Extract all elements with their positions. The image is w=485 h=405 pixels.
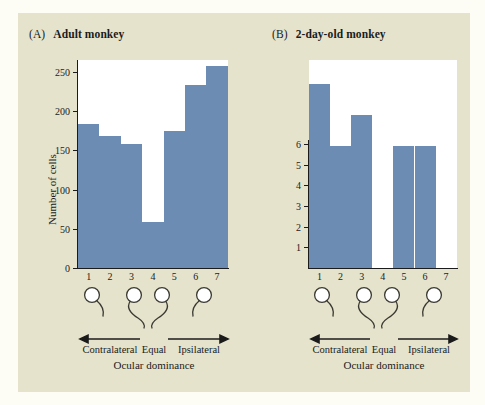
optic-chiasm-icon-left <box>358 302 374 329</box>
panel-b-bars <box>309 60 457 268</box>
optic-chiasm-icon-right <box>152 302 168 329</box>
optic-nerve-icon-left <box>327 301 334 317</box>
bar-b-5 <box>393 146 414 268</box>
arrow-right-head <box>449 335 457 343</box>
panel-b-ytick-mark-1 <box>304 247 308 248</box>
panel-a-ytick-label-200: 200 <box>44 106 70 117</box>
panel-b-axis-caption: Ocular dominance <box>344 359 425 371</box>
panel-b-ytick-mark-2 <box>304 227 308 228</box>
panel-b-ytick-mark-4 <box>304 185 308 186</box>
arrow-left-head <box>311 335 319 343</box>
panel-a-ytick-label-250: 250 <box>44 66 70 77</box>
panel-b-xtick-5: 5 <box>401 271 406 282</box>
bar-a-5 <box>164 131 185 268</box>
bar-a-7 <box>206 66 227 268</box>
panel-b-eye-diagram <box>309 285 459 335</box>
panel-b-yaxis <box>308 140 309 269</box>
panel-a-xtick-7: 7 <box>215 271 220 282</box>
panel-b-tag: (B) <box>272 28 288 40</box>
panel-b-ytick-mark-3 <box>304 206 308 207</box>
optic-chiasm-icon-right <box>382 302 398 329</box>
eye-diagram-svg <box>78 285 230 331</box>
panel-a-xaxis <box>77 268 229 269</box>
eyeball-icon-center-left <box>357 288 372 303</box>
panel-b-ytick-mark-6 <box>304 144 308 145</box>
panel-a-xtick-1: 1 <box>86 271 91 282</box>
bar-b-2 <box>330 146 351 268</box>
panel-b-ytick-label-6: 6 <box>285 139 301 150</box>
panel-a-tag: (A) <box>29 28 45 40</box>
bar-a-4 <box>142 222 163 268</box>
arrow-right-head <box>220 335 228 343</box>
optic-nerve-icon-right <box>193 301 200 317</box>
panel-a-ytick-mark-150 <box>73 150 77 151</box>
panel-a-title: (A) Adult monkey <box>29 28 124 40</box>
eyeball-icon-left <box>85 288 100 303</box>
optic-nerve-icon-right <box>423 301 430 317</box>
bar-a-3 <box>121 144 142 268</box>
panel-b-plot-area <box>309 60 457 268</box>
panel-b-ytick-label-1: 1 <box>285 242 301 253</box>
panel-b-ytick-label-5: 5 <box>285 159 301 170</box>
arrow-left-head <box>80 335 88 343</box>
panel-a-xtick-5: 5 <box>172 271 177 282</box>
bar-b-3 <box>351 115 372 268</box>
eyeball-icon-left <box>315 288 330 303</box>
eyeball-icon-center-right <box>155 288 170 303</box>
panel-a-xtick-3: 3 <box>129 271 134 282</box>
panel-b-xtick-3: 3 <box>359 271 364 282</box>
panel-b-ytick-label-2: 2 <box>285 221 301 232</box>
panel-a-axis-caption: Ocular dominance <box>114 359 195 371</box>
panel-a-yaxis <box>77 60 78 269</box>
optic-nerve-icon-left <box>97 301 104 317</box>
panel-a-ytick-mark-250 <box>73 72 77 73</box>
eyeball-icon-right <box>427 288 442 303</box>
panel-b-xaxis <box>308 268 458 269</box>
panel-b-name: 2-day-old monkey <box>296 28 386 40</box>
panel-b-label-contralateral: Contralateral <box>313 344 368 355</box>
panel-b-xtick-1: 1 <box>317 271 322 282</box>
eyeball-icon-right <box>197 288 212 303</box>
eyeball-icon-center-left <box>127 288 142 303</box>
panel-a-ytick-label-150: 150 <box>44 145 70 156</box>
panel-b-xtick-2: 2 <box>338 271 343 282</box>
panel-a-label-equal: Equal <box>142 344 167 355</box>
panel-b-title: (B) 2-day-old monkey <box>272 28 386 40</box>
panel-b-xtick-6: 6 <box>423 271 428 282</box>
panel-a-ytick-mark-100 <box>73 190 77 191</box>
panel-a-ytick-mark-0 <box>73 268 77 269</box>
panel-a-xtick-2: 2 <box>108 271 113 282</box>
figure-root: (A) Adult monkey Number of cells 0 50 10… <box>0 0 485 405</box>
bar-b-1 <box>309 84 330 268</box>
eyeball-icon-center-right <box>385 288 400 303</box>
bar-a-1 <box>78 124 99 268</box>
panel-a-eye-diagram <box>78 285 230 335</box>
panel-a-ytick-mark-50 <box>73 229 77 230</box>
panel-a-name: Adult monkey <box>53 28 124 40</box>
panel-a-label-ipsilateral: Ipsilateral <box>178 344 220 355</box>
panel-b-ytick-mark-5 <box>304 165 308 166</box>
panel-a-ytick-label-100: 100 <box>44 184 70 195</box>
panel-a-xtick-6: 6 <box>193 271 198 282</box>
panel-b-label-ipsilateral: Ipsilateral <box>408 344 450 355</box>
panel-b-ytick-label-3: 3 <box>285 201 301 212</box>
panel-a-label-contralateral: Contralateral <box>83 344 138 355</box>
bar-a-2 <box>99 136 120 268</box>
panel-a-ytick-label-0: 0 <box>44 263 70 274</box>
optic-chiasm-icon-left <box>128 302 144 329</box>
panel-b-xtick-4: 4 <box>380 271 385 282</box>
panel-a-xtick-4: 4 <box>150 271 155 282</box>
bar-a-6 <box>185 85 206 268</box>
panel-a-ytick-label-50: 50 <box>44 223 70 234</box>
panel-b-label-equal: Equal <box>372 344 397 355</box>
panel-a-plot-area <box>78 60 228 268</box>
panel-b-ytick-label-4: 4 <box>285 180 301 191</box>
panel-b-xtick-7: 7 <box>444 271 449 282</box>
panel-a-bars <box>78 60 228 268</box>
eye-diagram-svg-b <box>309 285 459 331</box>
panel-a-ytick-mark-200 <box>73 111 77 112</box>
bar-b-6 <box>415 146 436 268</box>
